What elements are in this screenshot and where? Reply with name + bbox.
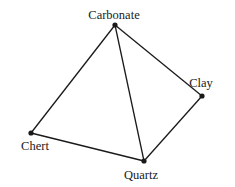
label-carbonate: Carbonate xyxy=(88,8,140,22)
label-clay: Clay xyxy=(189,76,213,90)
edges xyxy=(31,25,202,161)
vertex-carbonate xyxy=(112,22,117,27)
vertex-clay xyxy=(199,93,204,98)
label-chert: Chert xyxy=(21,139,49,153)
vertices xyxy=(28,22,204,163)
edge-carbonate-chert xyxy=(31,25,115,133)
vertex-chert xyxy=(28,130,33,135)
label-quartz: Quartz xyxy=(124,168,158,182)
vertex-quartz xyxy=(141,158,146,163)
edge-quartz-clay xyxy=(144,96,202,161)
tetrahedron-diagram: Carbonate Clay Chert Quartz xyxy=(0,0,235,187)
